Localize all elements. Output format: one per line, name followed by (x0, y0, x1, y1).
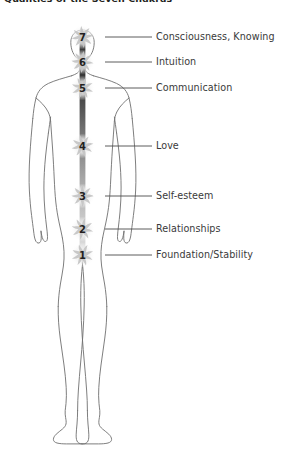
figure-title: Qualities of the Seven Chakras (4, 0, 172, 4)
chakra-number-6: 6 (79, 57, 86, 68)
chakra-label-7: Consciousness, Knowing (156, 31, 275, 42)
chakra-label-6: Intuition (156, 56, 196, 67)
chakra-label-2: Relationships (156, 223, 221, 234)
chakra-number-4: 4 (79, 141, 86, 152)
chakra-number-2: 2 (79, 224, 86, 235)
chakra-number-7: 7 (79, 32, 86, 43)
chakra-number-5: 5 (79, 83, 86, 94)
chakra-label-1: Foundation/Stability (156, 249, 253, 260)
chakra-label-3: Self-esteem (156, 190, 213, 201)
chakra-figure: Qualities of the Seven Chakras (0, 0, 294, 458)
chakra-number-1: 1 (79, 250, 86, 261)
chakra-label-4: Love (156, 140, 179, 151)
chakra-number-3: 3 (79, 191, 86, 202)
chakra-label-5: Communication (156, 82, 232, 93)
chakra-body-diagram: 7654321 (0, 0, 294, 458)
